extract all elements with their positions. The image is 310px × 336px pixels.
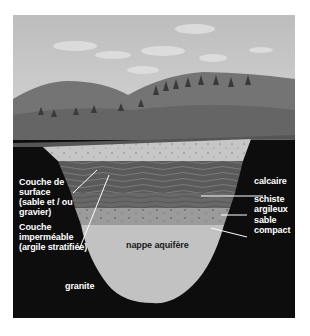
label-granite: granite [65,281,94,291]
label-surface-layer: Couche de surface (sable et / ou gravier… [19,177,73,217]
label-limestone: calcaire [254,176,287,186]
aquifer-cross-section-diagram: Couche de surface (sable et / ou gravier… [13,15,295,318]
label-shale: schiste argileux [254,194,288,214]
diagram-illustration [13,15,295,318]
label-impermeable-layer: Couche imperméable (argile stratifiée) [19,222,87,252]
shale-layer [71,193,235,208]
limestone-layer [58,161,243,193]
compact-sand-layer [75,208,230,225]
label-compact-sand: sable compact [254,215,290,235]
label-aquifer: nappe aquifère [126,240,189,250]
